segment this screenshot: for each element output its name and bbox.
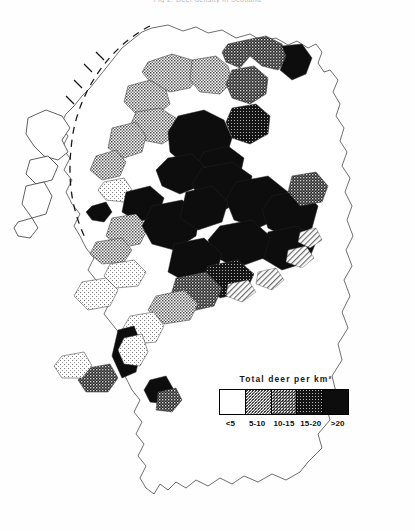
island-barra	[14, 218, 38, 238]
legend-label-5-10: 5-10	[244, 419, 271, 428]
deer-density-figure: Fig 2. Deer density in Scotland	[0, 0, 415, 531]
island-south-uist	[22, 182, 52, 218]
legend-swatch-10-15	[272, 390, 298, 414]
scotland-choropleth-map	[0, 0, 415, 531]
map-container	[0, 0, 415, 531]
legend-label-gt20: >20	[324, 419, 351, 428]
legend-swatch-row	[219, 389, 349, 415]
legend-label-10-15: 10-15	[271, 419, 298, 428]
legend-label-15-20: 15-20	[297, 419, 324, 428]
legend-label-lt5: <5	[217, 419, 244, 428]
legend-swatch-5-10	[246, 390, 272, 414]
legend-label-row: <5 5-10 10-15 15-20 >20	[217, 419, 351, 428]
map-legend: Total deer per km² <5 5-10 10-15 15-20 >…	[219, 374, 353, 428]
outer-hebrides-group	[14, 110, 70, 238]
island-lewis-harris	[26, 110, 70, 160]
legend-swatch-lt5	[220, 390, 246, 414]
legend-swatch-15-20	[297, 390, 323, 414]
island-north-uist	[26, 156, 58, 184]
legend-swatch-gt20	[323, 390, 348, 414]
legend-title: Total deer per km²	[219, 374, 353, 384]
